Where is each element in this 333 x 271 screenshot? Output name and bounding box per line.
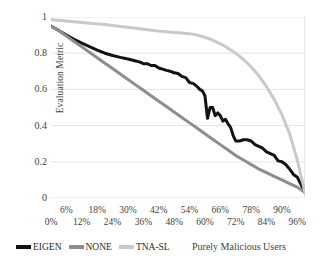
series-lines [51,20,305,193]
y-axis-tick-label: 0.6 [35,84,48,94]
legend-swatch-icon [69,245,84,249]
x-axis-tick-label: 84% [258,217,275,228]
x-axis-tick-label: 96% [289,217,306,228]
x-axis-tick-label: 48% [165,217,182,228]
x-axis-tick-label: 12% [73,217,90,228]
y-axis-tick-label: 0.8 [35,48,48,58]
x-axis-tick-label: 54% [181,205,198,216]
x-axis-title: Purely Malicious Users [192,241,286,252]
legend-swatch-icon [119,245,134,249]
y-axis-tick-label: 1 [42,12,47,22]
legend-item-eigen[interactable]: EIGEN [16,242,62,252]
legend-label: EIGEN [33,242,62,252]
legend-item-tna-sl[interactable]: TNA-SL [119,242,170,252]
x-axis-tick-label: 60% [196,217,213,228]
x-axis-tick-label: 36% [135,217,152,228]
y-axis-tick-label: 0.4 [35,121,48,131]
legend-swatch-icon [16,245,31,249]
chart-legend: EIGENNONETNA-SL [16,242,170,252]
series-line-none [51,26,305,193]
x-axis-tick-label: 18% [88,205,105,216]
x-axis-tick-label: 30% [119,205,136,216]
x-axis-tick-label: 24% [104,217,121,228]
y-axis-title: Evaluation Metric [55,23,65,133]
x-axis-tick-label: 90% [273,205,290,216]
chart-container: 10.80.60.40.20 Evaluation Metric 6%18%30… [0,0,333,271]
gridlines [51,17,305,198]
x-axis-tick-labels-lower: 0%12%24%36%48%60%72%84%96% [51,217,305,229]
plot-svg [51,17,305,198]
x-axis-tick-labels-upper: 6%18%30%42%54%66%78%90% [51,205,305,217]
x-axis-tick-label: 72% [227,217,244,228]
legend-label: NONE [86,242,112,252]
x-axis-tick-label: 6% [60,205,73,216]
y-axis-tick-label: 0.2 [35,157,48,167]
x-axis-tick-label: 66% [212,205,229,216]
x-axis-tick-label: 42% [150,205,167,216]
y-axis-tick-label: 0 [42,193,47,203]
legend-item-none[interactable]: NONE [69,242,112,252]
x-axis-tick-label: 0% [45,217,58,228]
x-axis-tick-label: 78% [242,205,259,216]
legend-label: TNA-SL [136,242,170,252]
plot-area: 10.80.60.40.20 Evaluation Metric [51,17,305,198]
